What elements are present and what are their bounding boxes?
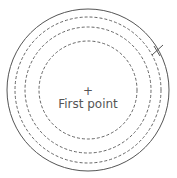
- concentric-circles-diagram: + First point: [0, 0, 177, 178]
- center-label: First point: [58, 97, 118, 111]
- tick-mark-icon: [152, 45, 163, 56]
- center-marker: +: [83, 84, 93, 98]
